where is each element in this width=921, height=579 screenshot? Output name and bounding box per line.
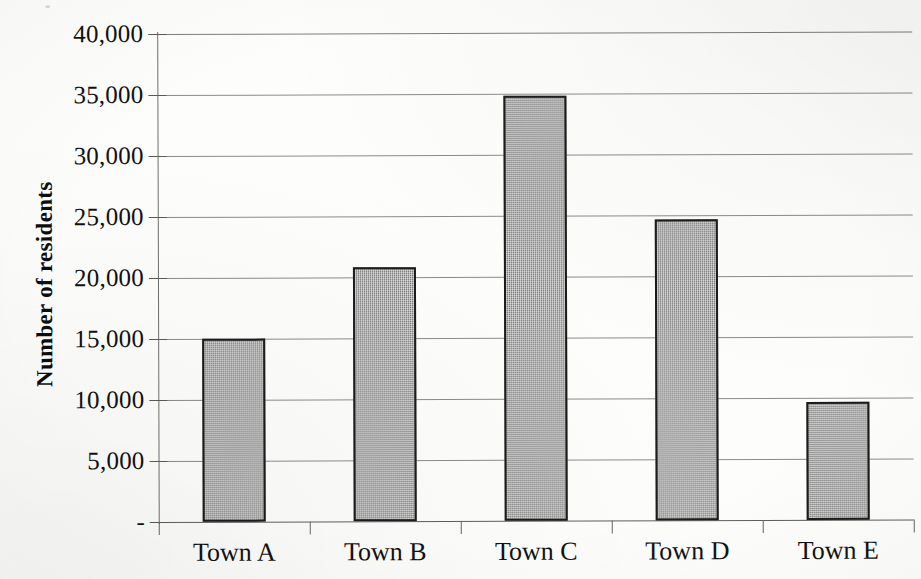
y-axis-tick-labels: -5,00010,00015,00020,00025,00030,00035,0…: [0, 0, 920, 1]
bar: [655, 219, 719, 521]
y-axis-tick-mark: [150, 461, 168, 462]
x-axis-category-label: Town D: [612, 536, 763, 566]
x-axis-category-label: Town E: [763, 536, 914, 566]
bar-chart-figure: Number of residents -5,00010,00015,00020…: [0, 0, 921, 579]
chart-skew-wrapper: Number of residents -5,00010,00015,00020…: [0, 0, 921, 579]
y-axis-tick-label: 20,000: [32, 265, 144, 290]
y-axis-tick-label: 25,000: [32, 204, 144, 229]
x-axis-category-label: Town C: [461, 537, 612, 567]
x-axis-category-label: Town A: [159, 537, 310, 567]
y-axis-tick-label: 40,000: [31, 21, 143, 46]
bar: [353, 267, 417, 521]
x-axis-tick-mark: [159, 522, 160, 535]
y-axis-tick-mark: [148, 95, 166, 96]
y-axis-tick-label: 30,000: [32, 143, 144, 168]
plot-area: Town ATown BTown CTown DTown E: [157, 32, 914, 522]
y-axis-tick-mark: [149, 400, 167, 401]
x-axis-category-label: Town B: [310, 537, 461, 567]
scan-artifact-speck: [45, 5, 50, 8]
y-axis-tick-label: 15,000: [32, 326, 144, 351]
y-axis-tick-mark: [149, 339, 167, 340]
y-axis-tick-mark: [148, 34, 166, 35]
bar: [503, 96, 567, 521]
y-axis-tick-label: 35,000: [31, 82, 143, 107]
y-axis-tick-mark: [149, 278, 167, 279]
x-axis-tick-mark: [461, 521, 462, 534]
gridline: [157, 32, 912, 35]
y-axis-tick-label: 10,000: [32, 387, 144, 412]
y-axis-tick-mark: [149, 156, 167, 157]
x-axis-tick-mark: [914, 520, 915, 533]
y-axis-tick-label: -: [33, 509, 145, 534]
bar: [202, 339, 266, 522]
y-axis-tick-label: 5,000: [32, 448, 144, 473]
gridlines-group: [157, 32, 912, 34]
x-axis-tick-mark: [612, 521, 613, 534]
x-axis-tick-mark: [310, 521, 311, 534]
bar: [806, 401, 869, 520]
y-axis-tick-mark: [149, 217, 167, 218]
x-axis-tick-mark: [763, 520, 764, 533]
